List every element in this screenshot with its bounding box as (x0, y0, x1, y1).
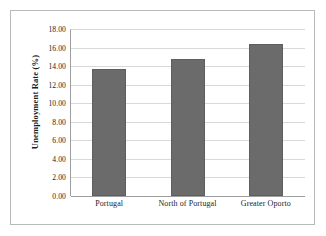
x-axis-tick-label: North of Portugal (148, 199, 226, 208)
x-axis-tick-label: Greater Oporto (227, 199, 305, 208)
y-axis-tick-label: 4.00 (8, 154, 70, 163)
y-axis-tick-label: 16.00 (8, 43, 70, 52)
y-axis-tick-label: 12.00 (8, 80, 70, 89)
x-axis-tick-labels: PortugalNorth of PortugalGreater Oporto (70, 199, 305, 215)
gridline (71, 196, 305, 197)
y-axis-tick-label: 10.00 (8, 99, 70, 108)
bar-series (70, 29, 305, 196)
y-axis-tick-label: 14.00 (8, 62, 70, 71)
y-axis-tick-labels: 18.0016.0014.0012.0010.008.006.004.002.0… (0, 29, 70, 196)
bar (249, 44, 283, 196)
y-axis-tick-label: 8.00 (8, 117, 70, 126)
bar (92, 69, 126, 196)
bar (171, 59, 205, 196)
y-axis-tick-label: 0.00 (8, 192, 70, 201)
y-axis-tick-label: 18.00 (8, 25, 70, 34)
x-axis-tick-label: Portugal (70, 199, 148, 208)
y-axis-tick-label: 2.00 (8, 173, 70, 182)
chart-figure: Unemployment Rate (%) 18.0016.0014.0012.… (0, 0, 326, 236)
y-axis-tick-label: 6.00 (8, 136, 70, 145)
